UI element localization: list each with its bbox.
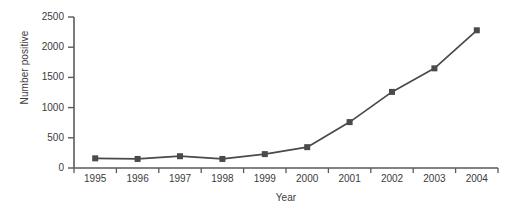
x-axis-tick-label: 2004 [454, 174, 500, 184]
data-point-marker [474, 27, 480, 33]
y-axis-tick-label: 1500 [18, 72, 64, 82]
x-axis-tick-label: 1996 [115, 174, 161, 184]
data-point-marker [135, 156, 141, 162]
x-axis-tick-label: 2002 [369, 174, 415, 184]
data-point-marker [347, 119, 353, 125]
x-axis-tick-label: 1998 [199, 174, 245, 184]
x-axis-tick-label: 1999 [242, 174, 288, 184]
x-axis-tick-label: 2001 [327, 174, 373, 184]
data-point-marker [304, 144, 310, 150]
x-axis-tick-label: 2003 [411, 174, 457, 184]
y-axis-tick-label: 2500 [18, 12, 64, 22]
x-axis-tick-label: 2000 [284, 174, 330, 184]
x-axis-title: Year [74, 192, 498, 203]
y-axis-tick-label: 1000 [18, 103, 64, 113]
x-axis-tick-label: 1995 [72, 174, 118, 184]
y-axis-tick-label: 0 [18, 163, 64, 173]
data-point-marker [389, 89, 395, 95]
data-point-marker [177, 153, 183, 159]
data-series-line [95, 30, 477, 159]
data-point-marker [92, 155, 98, 161]
y-axis-tick-label: 2000 [18, 42, 64, 52]
plot-area [0, 0, 512, 218]
data-point-marker [431, 65, 437, 71]
line-chart: Number positive Year 0500100015002000250… [0, 0, 512, 218]
data-point-marker [219, 156, 225, 162]
x-axis-tick-label: 1997 [157, 174, 203, 184]
y-axis-tick-label: 500 [18, 133, 64, 143]
data-point-marker [262, 151, 268, 157]
